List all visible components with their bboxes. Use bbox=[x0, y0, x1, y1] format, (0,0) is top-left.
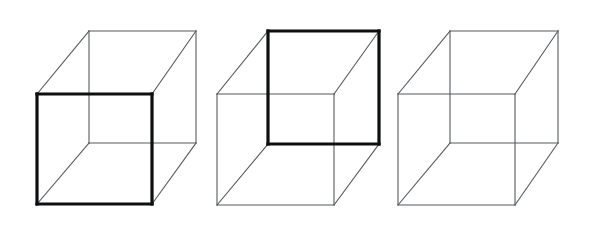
necker-cube-figure bbox=[0, 0, 597, 231]
necker-cube-canvas bbox=[0, 0, 597, 231]
